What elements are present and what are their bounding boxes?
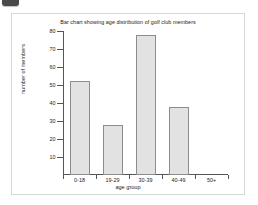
x-tick-label: 40-49 — [172, 177, 186, 183]
x-tick — [162, 175, 163, 179]
x-tick — [129, 175, 130, 179]
bar — [136, 35, 156, 175]
bar — [70, 81, 90, 175]
y-tick-label: 10 — [50, 154, 58, 160]
y-tick-label: 70 — [50, 46, 58, 52]
x-tick-label: 19-29 — [106, 177, 120, 183]
bar — [103, 125, 123, 175]
y-tick-label: 20 — [50, 136, 58, 142]
bar — [169, 107, 189, 175]
x-tick-label: 50+ — [207, 177, 216, 183]
y-tick-label: 80 — [50, 28, 58, 34]
x-tick-label: 0-18 — [74, 177, 85, 183]
y-axis-title: number of members — [20, 21, 26, 117]
y-tick-label: 40 — [50, 100, 58, 106]
chart-panel: Bar chart showing age distribution of go… — [11, 13, 245, 195]
x-axis-title: age group — [12, 184, 244, 190]
x-tick — [195, 175, 196, 179]
y-tick-label: 30 — [50, 118, 58, 124]
y-tick-label: 60 — [50, 64, 58, 70]
bars-layer — [63, 31, 228, 175]
x-tick — [228, 175, 229, 179]
x-tick-label: 30-39 — [139, 177, 153, 183]
x-tick — [63, 175, 64, 179]
corner-badge — [2, 0, 19, 6]
y-tick-label: 50 — [50, 82, 58, 88]
x-tick — [96, 175, 97, 179]
plot-area: number of members age group 102030405060… — [12, 14, 244, 194]
